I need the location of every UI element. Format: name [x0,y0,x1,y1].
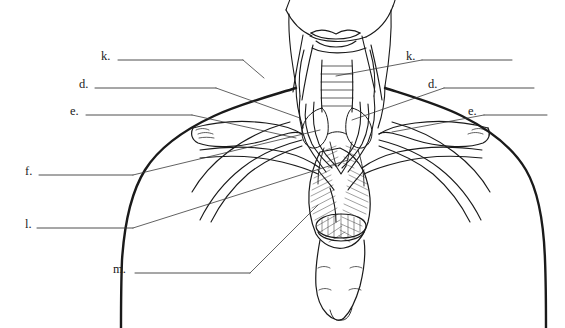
label-m-left: m. [113,263,126,276]
label-e-left: e. [70,105,79,118]
anatomy-illustration [0,0,565,328]
label-d-left: d. [79,78,88,91]
label-k-left: k. [101,50,110,63]
label-l-left: l. [25,218,32,231]
figure-canvas: k. d. e. f. l. m. k. d. e. [0,0,565,328]
label-f-left: f. [25,165,32,178]
label-e-right: e. [468,105,477,118]
label-k-right: k. [406,50,415,63]
label-d-right: d. [428,78,437,91]
figure-background [0,0,565,328]
